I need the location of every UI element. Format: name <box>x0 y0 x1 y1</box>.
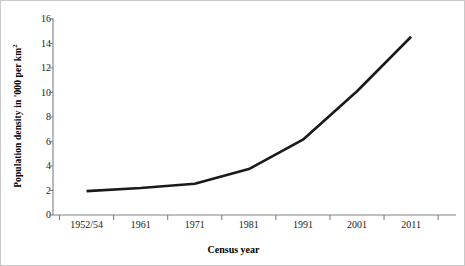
data-line-series-0 <box>87 37 412 191</box>
chart-plot <box>1 1 465 266</box>
chart-figure: 0246810121416 1952/541961197119811991200… <box>0 0 465 266</box>
